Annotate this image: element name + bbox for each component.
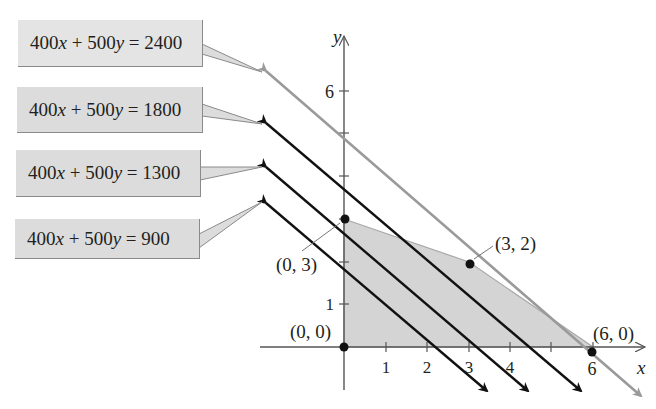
tick-label-y1: 1 [326, 295, 335, 314]
callout-box-1800: 400x + 500y = 1800 [17, 87, 203, 133]
callout-box-1300: 400x + 500y = 1300 [16, 150, 201, 197]
callout-pointer-2400 [202, 44, 262, 72]
point-label-3-2: (3, 2) [495, 233, 536, 255]
callout-box-2400: 400x + 500y = 2400 [18, 20, 203, 67]
point-0-0 [340, 343, 349, 352]
callout-pointer-1800 [202, 104, 262, 124]
point-6-0 [588, 348, 597, 357]
equation-label-900: 400x + 500y = 900 [27, 228, 170, 250]
point-3-2 [466, 260, 475, 269]
callout-pointer-1300 [200, 167, 262, 180]
callout-pointer-900 [199, 202, 262, 248]
equation-label-1300: 400x + 500y = 1300 [28, 162, 180, 184]
tick-label-y6: 6 [325, 82, 334, 102]
callout-box-900: 400x + 500y = 900 [15, 219, 200, 259]
point-label-0-0: (0, 0) [290, 321, 331, 343]
tick-label-x2: 2 [423, 358, 432, 377]
axis-label-x: x [636, 357, 646, 378]
tick-label-x6: 6 [588, 359, 597, 379]
feasible-region [344, 219, 593, 347]
point-0-3 [341, 215, 350, 224]
axis-label-y: y [331, 26, 342, 47]
equation-label-1800: 400x + 500y = 1800 [29, 99, 181, 121]
tick-label-x1: 1 [382, 358, 391, 377]
equation-label-2400: 400x + 500y = 2400 [30, 32, 182, 54]
point-label-6-0: (6, 0) [593, 323, 634, 345]
point-label-0-3: (0, 3) [276, 254, 317, 276]
